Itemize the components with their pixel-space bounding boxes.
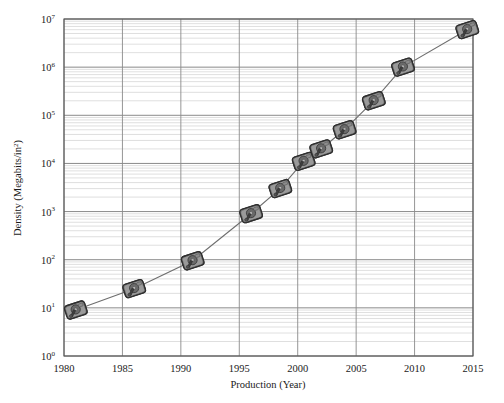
y-axis-title: Density (Megabits/in2) <box>12 140 25 236</box>
x-tick-label: 2015 <box>463 363 484 374</box>
x-tick-label: 1995 <box>229 363 250 374</box>
density-vs-year-log-scatter-chart: 19801985199019952000200520102015 1001011… <box>0 0 504 403</box>
chart-background <box>0 0 504 403</box>
y-axis-title-tail: ) <box>12 140 24 144</box>
x-tick-label: 2010 <box>404 363 425 374</box>
x-tick-label: 1990 <box>170 363 191 374</box>
x-tick-label: 2005 <box>346 363 367 374</box>
x-tick-label: 2000 <box>287 363 308 374</box>
x-axis-title: Production (Year) <box>230 379 306 391</box>
svg-text:Density (Megabits/in2): Density (Megabits/in2) <box>12 140 25 236</box>
x-tick-label: 1980 <box>54 363 75 374</box>
y-axis-title-base: Density (Megabits/in <box>12 146 24 236</box>
chart-figure: 19801985199019952000200520102015 1001011… <box>0 0 504 403</box>
x-tick-label: 1985 <box>112 363 133 374</box>
